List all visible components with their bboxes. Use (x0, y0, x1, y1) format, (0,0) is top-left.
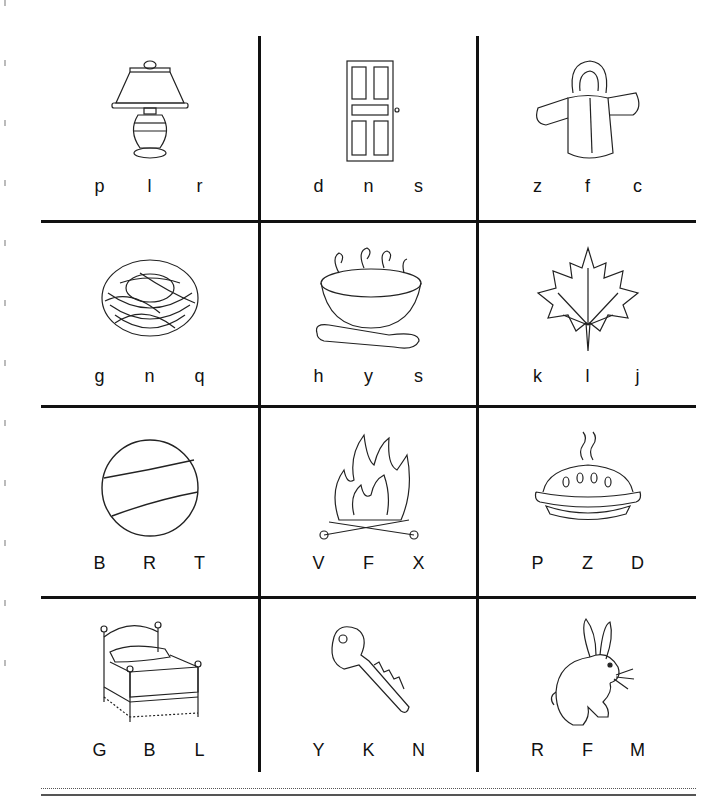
letter-choices: Y K N (294, 740, 444, 760)
worksheet-cell-leaf: k l j (479, 240, 696, 386)
letter-choices: V F X (294, 553, 444, 573)
letter-choice[interactable]: s (394, 366, 444, 386)
letter-choice[interactable]: N (394, 740, 444, 760)
letter-choice[interactable]: L (175, 740, 225, 760)
worksheet-cell-rabbit: R F M (479, 614, 696, 760)
letter-choice[interactable]: B (125, 740, 175, 760)
letter-choice[interactable]: j (613, 366, 663, 386)
worksheet-grid: p l r d n s (41, 0, 696, 772)
jacket-icon (523, 50, 653, 170)
letter-choice[interactable]: V (294, 553, 344, 573)
letter-choice[interactable]: X (394, 553, 444, 573)
worksheet-cell-pie: P Z D (479, 427, 696, 573)
letter-choices: B R T (75, 553, 225, 573)
letter-choices: p l r (75, 176, 225, 196)
letter-choice[interactable]: q (175, 366, 225, 386)
letter-choices: R F M (513, 740, 663, 760)
letter-choice[interactable]: l (125, 176, 175, 196)
letter-choice[interactable]: k (513, 366, 563, 386)
pie-icon (523, 427, 653, 547)
letter-choice[interactable]: f (563, 176, 613, 196)
worksheet-cell-bed: G B L (41, 614, 258, 760)
worksheet-cell-lamp: p l r (41, 50, 258, 196)
footer-rule (41, 794, 696, 796)
letter-choices: z f c (513, 176, 663, 196)
letter-choices: G B L (75, 740, 225, 760)
letter-choice[interactable]: c (613, 176, 663, 196)
letter-choice[interactable]: M (613, 740, 663, 760)
letter-choice[interactable]: K (344, 740, 394, 760)
letter-choice[interactable]: F (344, 553, 394, 573)
letter-choice[interactable]: d (294, 176, 344, 196)
letter-choice[interactable]: G (75, 740, 125, 760)
soup-icon (304, 240, 434, 360)
letter-choices: d n s (294, 176, 444, 196)
letter-choice[interactable]: r (175, 176, 225, 196)
letter-choice[interactable]: B (75, 553, 125, 573)
letter-choice[interactable]: n (125, 366, 175, 386)
nest-icon (85, 240, 215, 360)
key-icon (304, 614, 434, 734)
worksheet-cell-door: d n s (261, 50, 476, 196)
worksheet-cell-fire: V F X (261, 427, 476, 573)
worksheet-cell-nest: g n q (41, 240, 258, 386)
grid-divider-horizontal (41, 220, 696, 223)
worksheet-cell-jacket: z f c (479, 50, 696, 196)
letter-choices: k l j (513, 366, 663, 386)
lamp-icon (85, 50, 215, 170)
rabbit-icon (523, 614, 653, 734)
grid-divider-horizontal (41, 596, 696, 599)
worksheet-cell-soup: h y s (261, 240, 476, 386)
letter-choice[interactable]: R (513, 740, 563, 760)
letter-choices: P Z D (513, 553, 663, 573)
letter-choice[interactable]: Z (563, 553, 613, 573)
worksheet-cell-key: Y K N (261, 614, 476, 760)
margin-marks (4, 0, 6, 680)
letter-choice[interactable]: Y (294, 740, 344, 760)
letter-choice[interactable]: s (394, 176, 444, 196)
worksheet-cell-ball: B R T (41, 427, 258, 573)
letter-choice[interactable]: T (175, 553, 225, 573)
letter-choice[interactable]: y (344, 366, 394, 386)
letter-choice[interactable]: z (513, 176, 563, 196)
letter-choices: h y s (294, 366, 444, 386)
door-icon (304, 50, 434, 170)
letter-choice[interactable]: g (75, 366, 125, 386)
letter-choice[interactable]: n (344, 176, 394, 196)
letter-choice[interactable]: D (613, 553, 663, 573)
letter-choices: g n q (75, 366, 225, 386)
letter-choice[interactable]: p (75, 176, 125, 196)
letter-choice[interactable]: F (563, 740, 613, 760)
letter-choice[interactable]: h (294, 366, 344, 386)
grid-divider-horizontal (41, 405, 696, 408)
ball-icon (85, 427, 215, 547)
letter-choice[interactable]: R (125, 553, 175, 573)
footer-dotted-rule (41, 788, 696, 791)
bed-icon (85, 614, 215, 734)
fire-icon (304, 427, 434, 547)
letter-choice[interactable]: l (563, 366, 613, 386)
leaf-icon (523, 240, 653, 360)
letter-choice[interactable]: P (513, 553, 563, 573)
